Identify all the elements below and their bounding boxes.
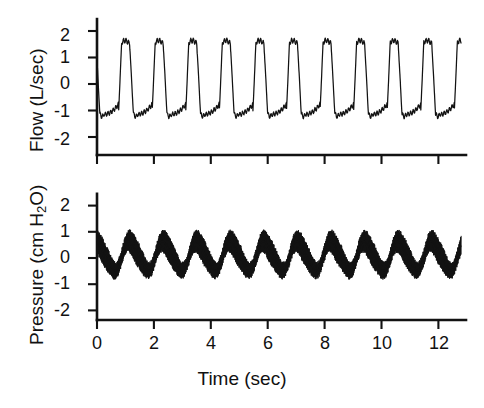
time-xtick-label: 2	[139, 333, 169, 354]
time-axis-label: Time (sec)	[0, 368, 484, 390]
flow-trace	[97, 38, 461, 119]
flow-axes	[88, 19, 466, 164]
time-xtick-label: 8	[310, 333, 340, 354]
time-xtick-label: 10	[366, 333, 398, 354]
flow-ytick-label: 2	[40, 25, 70, 46]
time-xtick-label: 6	[253, 333, 283, 354]
pressure-ytick-label: -2	[34, 300, 70, 321]
flow-ytick-label: -1	[34, 101, 70, 122]
plot-canvas	[0, 0, 484, 408]
pressure-ytick-label: 0	[40, 247, 70, 268]
pressure-ytick-label: 2	[40, 195, 70, 216]
respiratory-waveform-figure: Flow (L/sec) Pressure (cm H2O) Time (sec…	[0, 0, 484, 408]
pressure-ytick-label: -1	[34, 273, 70, 294]
flow-ytick-label: -2	[34, 129, 70, 150]
flow-ytick-label: 1	[40, 47, 70, 68]
time-xtick-label: 4	[196, 333, 226, 354]
pressure-ytick-label: 1	[40, 221, 70, 242]
time-xtick-label: 0	[82, 333, 112, 354]
flow-ytick-label: 0	[40, 73, 70, 94]
time-xtick-label: 12	[423, 333, 455, 354]
